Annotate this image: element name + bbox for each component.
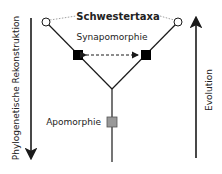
apomorphy-marker [107, 117, 117, 127]
taxon-node-right [174, 18, 182, 26]
synapomorphy-marker-left [73, 50, 83, 60]
dotted-connector-left [50, 16, 76, 20]
sister-taxa-label: Schwestertaxa [76, 11, 159, 22]
taxon-node-left [42, 18, 50, 26]
synapomorphy-marker-right [141, 50, 151, 60]
synapomorphy-label: Synapomorphie [77, 32, 148, 42]
reconstruction-label: Phylogenetische Rekonstruktion [11, 16, 21, 160]
evolution-label: Evolution [204, 69, 214, 111]
apomorphy-label: Apomorphie [46, 117, 101, 127]
dotted-connector-right [160, 16, 174, 20]
phylogeny-diagram: Phylogenetische Rekonstruktion Evolution… [0, 0, 222, 174]
